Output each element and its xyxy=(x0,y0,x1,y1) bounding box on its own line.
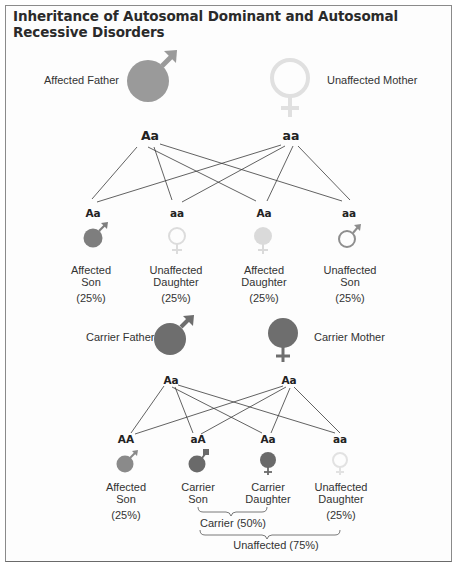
child-genotype: aa xyxy=(333,433,347,445)
child-label-line1: Affected xyxy=(71,264,111,276)
child-genotype: aa xyxy=(342,207,356,219)
child-label-line2: Son xyxy=(188,493,208,505)
unaffected-bracket-label: Unaffected (75%) xyxy=(233,539,318,551)
mother-genotype: aa xyxy=(283,128,300,143)
child-percent: (25%) xyxy=(111,509,140,521)
child-label-line2: Daughter xyxy=(245,493,291,505)
male-symbol-outline-icon xyxy=(339,224,361,247)
child-affected-son: Aa Affected Son (25%) xyxy=(71,207,111,304)
female-symbol-outline-icon xyxy=(272,60,308,117)
child-label-line2: Daughter xyxy=(318,493,364,505)
carrier-father-label: Carrier Father xyxy=(86,331,155,343)
child-label-line2: Son xyxy=(81,276,101,288)
child-unaffected-son: aa Unaffected Son (25%) xyxy=(323,207,376,304)
unaffected-bracket xyxy=(200,530,340,539)
female-symbol-outline-icon xyxy=(333,453,347,475)
child-affected-daughter: Aa Affected Daughter (25%) xyxy=(241,207,287,304)
child-label-line1: Unaffected xyxy=(323,264,376,276)
recessive-cross: Carrier Father Carrier Mother Aa Aa AA xyxy=(86,315,385,551)
child-label-line1: Carrier xyxy=(181,481,215,493)
child-label-line2: Son xyxy=(340,276,360,288)
male-symbol-filled-icon xyxy=(117,450,139,473)
child-unaffected-daughter: aa Unaffected Daughter (25%) xyxy=(149,207,202,304)
dominant-cross-lines xyxy=(92,144,350,202)
female-symbol-filled-icon xyxy=(268,318,298,362)
child-genotype: Aa xyxy=(85,207,100,219)
child-label-line1: Affected xyxy=(106,481,146,493)
child-label-line1: Unaffected xyxy=(314,481,367,493)
child-genotype: Aa xyxy=(260,433,275,445)
child-label-line2: Son xyxy=(116,493,136,505)
inheritance-diagram: Affected Father Unaffected Mother Aa aa xyxy=(0,0,458,564)
unaffected-mother-label: Unaffected Mother xyxy=(327,74,418,86)
child-percent: (25%) xyxy=(161,292,190,304)
carrier-mother-label: Carrier Mother xyxy=(314,331,385,343)
child-percent: (25%) xyxy=(326,509,355,521)
child-genotype: aa xyxy=(170,207,184,219)
male-symbol-filled-icon xyxy=(127,50,177,102)
child-label-line1: Affected xyxy=(244,264,284,276)
child-unaffected-daughter: aa Unaffected Daughter (25%) xyxy=(314,433,367,521)
child-percent: (25%) xyxy=(335,292,364,304)
child-percent: (25%) xyxy=(76,292,105,304)
child-label-line1: Unaffected xyxy=(149,264,202,276)
male-symbol-filled-icon xyxy=(189,449,210,473)
child-affected-son: AA Affected Son (25%) xyxy=(106,433,146,521)
carrier-bracket xyxy=(198,507,267,516)
child-carrier-son: aA Carrier Son xyxy=(181,433,215,505)
carrier-bracket-label: Carrier (50%) xyxy=(200,517,266,529)
child-label-line1: Carrier xyxy=(251,481,285,493)
father-genotype: Aa xyxy=(141,128,159,143)
female-symbol-filled-icon xyxy=(254,227,272,254)
male-symbol-filled-icon xyxy=(154,315,194,355)
child-label-line2: Daughter xyxy=(241,276,287,288)
male-symbol-filled-icon xyxy=(84,222,109,248)
dominant-cross: Affected Father Unaffected Mother Aa aa xyxy=(44,50,418,304)
child-label-line2: Daughter xyxy=(153,276,199,288)
recessive-cross-lines xyxy=(131,385,340,434)
child-percent: (25%) xyxy=(249,292,278,304)
mother-genotype: Aa xyxy=(281,374,296,386)
female-symbol-filled-icon xyxy=(260,452,276,475)
child-carrier-daughter: Aa Carrier Daughter xyxy=(245,433,291,505)
father-genotype: Aa xyxy=(163,374,178,386)
female-symbol-outline-icon xyxy=(169,228,185,254)
child-genotype: Aa xyxy=(256,207,271,219)
affected-father-label: Affected Father xyxy=(44,74,119,86)
child-genotype: AA xyxy=(118,433,135,445)
child-genotype: aA xyxy=(190,433,206,445)
